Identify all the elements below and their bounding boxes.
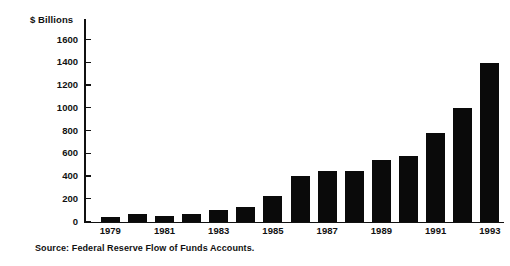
bar: [372, 160, 391, 222]
bar: [101, 217, 120, 222]
bar: [209, 210, 228, 222]
y-axis-tick-label: 1400: [16, 56, 78, 67]
bar: [453, 108, 472, 222]
x-axis-tick-label: 1989: [371, 225, 392, 236]
bar: [291, 176, 310, 222]
y-axis-tick-label: 800: [16, 125, 78, 136]
x-axis-tick-label: 1985: [262, 225, 283, 236]
bar: [318, 171, 337, 222]
y-axis-tick-label: 400: [16, 170, 78, 181]
x-axis-tick-label: 1983: [208, 225, 229, 236]
y-axis-tick-label: 1200: [16, 79, 78, 90]
y-axis-tick-label-wrap: 400: [16, 170, 78, 181]
y-axis-tick-label-wrap: 800: [16, 125, 78, 136]
bar: [426, 133, 445, 222]
y-axis-title: $ Billions: [30, 14, 73, 25]
y-axis-tick-label-wrap: 600: [16, 147, 78, 158]
x-axis-tick-label: 1993: [479, 225, 500, 236]
y-axis-tick-label: 1000: [16, 102, 78, 113]
chart-figure: $ Billions 02004006008001000120014001600…: [0, 0, 510, 266]
x-axis-tick-label: 1981: [154, 225, 175, 236]
y-axis-tick-label-wrap: 1000: [16, 102, 78, 113]
x-axis-tick-label: 1991: [425, 225, 446, 236]
bar: [263, 196, 282, 222]
y-axis-tick-label-wrap: 1200: [16, 79, 78, 90]
y-axis-tick-label: 200: [16, 193, 78, 204]
y-axis-tick-label: 600: [16, 147, 78, 158]
y-axis-tick-label: 1600: [16, 34, 78, 45]
bar: [345, 171, 364, 222]
bar: [155, 216, 174, 222]
bar: [236, 207, 255, 222]
source-note: Source: Federal Reserve Flow of Funds Ac…: [35, 243, 254, 253]
x-axis-tick-label: 1979: [100, 225, 121, 236]
y-axis-tick-label-wrap: 1600: [16, 34, 78, 45]
bar: [182, 214, 201, 222]
y-axis-tick-label-wrap: 0: [16, 216, 78, 227]
y-axis-tick-label-wrap: 200: [16, 193, 78, 204]
x-axis-tick-label: 1987: [317, 225, 338, 236]
bar: [480, 63, 499, 222]
bar: [128, 214, 147, 222]
bar-series: [85, 19, 505, 222]
bar: [399, 156, 418, 222]
y-axis-tick-label-wrap: 1400: [16, 56, 78, 67]
y-axis-tick-label: 0: [16, 216, 78, 227]
